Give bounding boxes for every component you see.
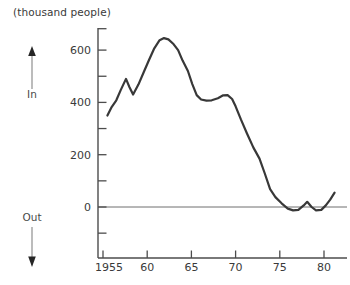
- x-tick-label: 80: [317, 261, 331, 274]
- chart-plot-area: 020040060019556065707580: [0, 0, 350, 285]
- x-tick-label: 65: [184, 261, 198, 274]
- y-tick-label: 600: [70, 44, 91, 57]
- y-tick-label: 200: [70, 149, 91, 162]
- x-tick-label: 1955: [95, 261, 123, 274]
- line-chart-figure: (thousand people) In Out 020040060019556…: [0, 0, 350, 285]
- x-tick-label: 75: [273, 261, 287, 274]
- x-tick-label: 70: [229, 261, 243, 274]
- x-tick-label: 60: [140, 261, 154, 274]
- y-tick-label: 0: [84, 201, 91, 214]
- migration-line: [107, 38, 334, 210]
- y-tick-label: 400: [70, 96, 91, 109]
